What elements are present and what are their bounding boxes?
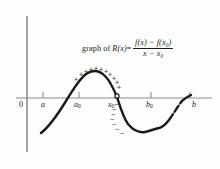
minus-sign-5: − (115, 126, 119, 133)
axis-label-b0: b0 (146, 100, 153, 109)
formula-numerator: f(x) − f(x₀) (133, 38, 173, 49)
plus-sign-0: + (74, 76, 78, 83)
plus-sign-2: + (84, 68, 88, 75)
graph-svg (0, 0, 220, 169)
plus-sign-10: + (117, 84, 121, 91)
plus-sign-5: + (99, 66, 103, 73)
axis-label-a0: a0 (74, 100, 81, 109)
formula-denominator: x − x₀ (141, 49, 165, 59)
plus-sign-3: + (89, 66, 93, 73)
axis-label-origin: 0 (19, 100, 23, 109)
curve-dashed-segment (169, 101, 182, 120)
formula-fraction: f(x) − f(x₀) x − x₀ (133, 38, 173, 58)
plus-sign-4: + (94, 65, 98, 72)
plus-sign-1: + (79, 71, 83, 78)
axis-label-a: a (41, 100, 45, 109)
minus-sign-6: − (120, 130, 124, 137)
formula-equals: = (127, 44, 132, 53)
formula-lead: graph of (82, 44, 112, 53)
formula-caption: graph of R(x) = f(x) − f(x₀) x − x₀ (82, 38, 173, 58)
axis-label-b: b (192, 100, 196, 109)
point-marker-x0 (115, 94, 119, 98)
formula-function-name: R(x) (112, 44, 127, 53)
figure-container: graph of R(x) = f(x) − f(x₀) x − x₀ 0 a … (0, 0, 220, 169)
